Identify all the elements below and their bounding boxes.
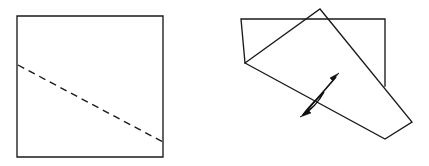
figure-canvas bbox=[0, 0, 429, 166]
fold-arrow-head-upper bbox=[329, 73, 339, 85]
folded-flap-outline bbox=[245, 9, 412, 139]
panel-after-fold bbox=[241, 9, 412, 139]
paper-folding-figure bbox=[0, 0, 429, 166]
square-outline bbox=[17, 16, 163, 157]
crease-line-dashed bbox=[18, 65, 163, 142]
fold-arrow-head-lower bbox=[300, 107, 313, 117]
panel-before-fold bbox=[17, 16, 163, 157]
rectangle-outline bbox=[241, 19, 385, 86]
